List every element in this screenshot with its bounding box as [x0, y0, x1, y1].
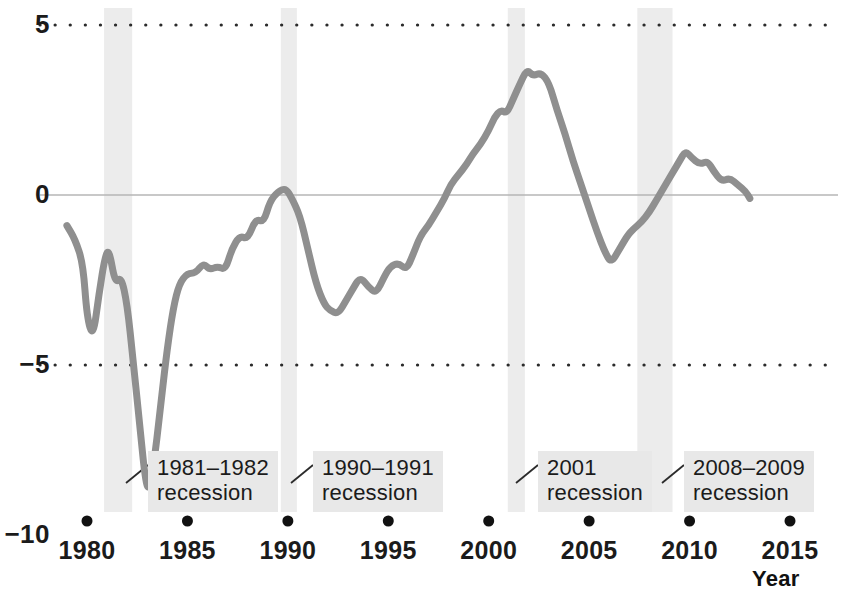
- recession-band-3: [637, 8, 672, 512]
- x-tick-label-1985: 1985: [132, 538, 242, 563]
- annotation-label: recession: [547, 481, 643, 506]
- recession-annotation-0: 1981–1982recession: [148, 451, 278, 512]
- x-tick-dot-1990: [282, 516, 293, 527]
- recession-band-1: [281, 8, 297, 512]
- annotation-years: 2008–2009: [693, 456, 805, 481]
- gridlines-group: [40, 25, 838, 365]
- x-tick-label-1980: 1980: [32, 538, 142, 563]
- annotation-label: recession: [157, 481, 269, 506]
- annotation-years: 1981–1982: [157, 456, 269, 481]
- x-axis-tick-dots: [82, 516, 796, 527]
- x-axis-title: Year: [752, 566, 800, 592]
- x-tick-label-2010: 2010: [635, 538, 745, 563]
- x-tick-label-2000: 2000: [434, 538, 544, 563]
- recession-annotation-3: 2008–2009recession: [684, 451, 814, 512]
- x-tick-dot-1995: [383, 516, 394, 527]
- x-tick-dot-1985: [182, 516, 193, 527]
- x-tick-dot-2000: [483, 516, 494, 527]
- x-tick-dot-2010: [684, 516, 695, 527]
- x-tick-dot-1980: [82, 516, 93, 527]
- y-tick-label-−5: −5: [0, 351, 50, 377]
- x-tick-label-2005: 2005: [534, 538, 644, 563]
- recession-annotation-2: 2001recession: [538, 451, 652, 512]
- annotation-label: recession: [693, 481, 805, 506]
- x-tick-dot-2005: [584, 516, 595, 527]
- x-tick-label-2015: 2015: [735, 538, 842, 563]
- annotation-years: 2001: [547, 456, 643, 481]
- y-tick-label-0: 0: [0, 181, 50, 207]
- x-tick-dot-2015: [785, 516, 796, 527]
- recession-bands-group: [104, 8, 672, 512]
- recession-annotation-1: 1990–1991recession: [313, 451, 443, 512]
- annotation-years: 1990–1991: [322, 456, 434, 481]
- y-tick-label-5: 5: [0, 11, 50, 37]
- x-tick-label-1995: 1995: [333, 538, 443, 563]
- chart-container: 50−5−10 19801985199019952000200520102015…: [0, 0, 842, 601]
- annotation-label: recession: [322, 481, 434, 506]
- x-tick-label-1990: 1990: [233, 538, 343, 563]
